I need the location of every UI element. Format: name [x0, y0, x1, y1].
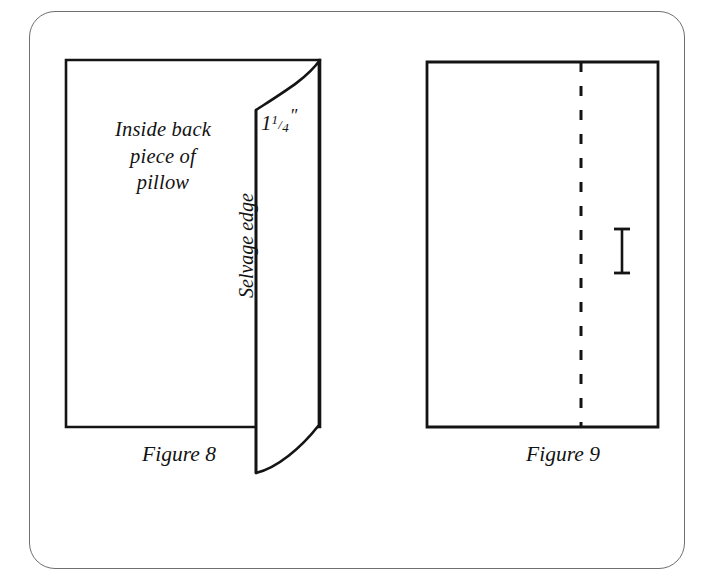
dimension-whole-number: 1: [261, 111, 272, 135]
inside-back-piece-line-2: piece of: [73, 143, 253, 170]
figure-8-caption: Figure 8: [99, 442, 259, 467]
seam-allowance-dimension-label: 11/4″: [261, 111, 296, 136]
figure-9-drawing: [415, 48, 675, 488]
figure-8: Inside back piece of pillow 11/4″ Selvag…: [55, 48, 345, 488]
illustration-plate: Inside back piece of pillow 11/4″ Selvag…: [0, 0, 725, 582]
figure-9: Figure 9: [415, 48, 675, 488]
pillow-back-rectangle: [427, 62, 658, 427]
dimension-denominator: 4: [282, 120, 289, 135]
figure-8-drawing: [55, 48, 345, 488]
measurement-marker: [614, 229, 630, 273]
inside-back-piece-label: Inside back piece of pillow: [73, 116, 253, 196]
figure-9-caption: Figure 9: [483, 442, 643, 467]
inside-back-piece-line-1: Inside back: [73, 116, 253, 143]
dimension-inch-mark: ″: [290, 106, 297, 126]
inside-back-piece-line-3: pillow: [73, 169, 253, 196]
selvage-edge-label: Selvage edge: [235, 193, 258, 298]
